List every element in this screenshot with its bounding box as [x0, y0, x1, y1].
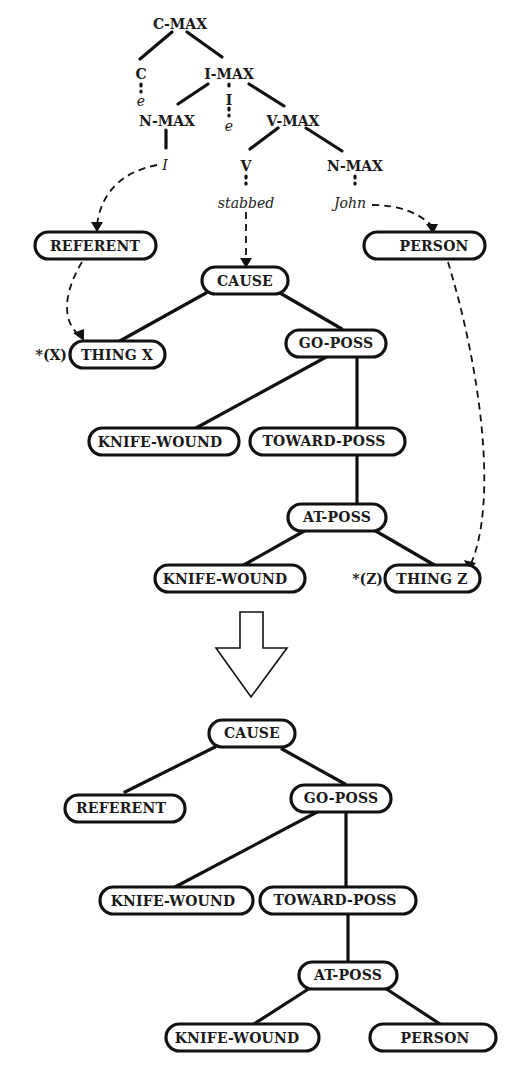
c-max-node: C-MAX	[153, 16, 207, 32]
thing-z-node: THING Z	[385, 565, 480, 592]
thing-x-marker: *(X)	[36, 347, 67, 363]
object-word: John	[331, 195, 366, 211]
thing-z-marker: *(Z)	[352, 571, 383, 587]
svg-text:CAUSE: CAUSE	[217, 273, 273, 289]
n-max-object-node: N-MAX	[327, 158, 383, 174]
result-at-poss-node: AT-POSS	[299, 962, 397, 989]
result-cause-node: CAUSE	[209, 720, 295, 747]
svg-text:PERSON: PERSON	[400, 1030, 469, 1046]
result-knife-wound-node-2: KNIFE-WOUND	[166, 1024, 319, 1051]
svg-text:PERSON: PERSON	[399, 238, 468, 254]
person-node: PERSON	[364, 232, 485, 259]
svg-text:GO-POSS: GO-POSS	[299, 335, 374, 351]
n-max-subject-node: N-MAX	[139, 113, 195, 129]
svg-text:TOWARD-POSS: TOWARD-POSS	[263, 433, 386, 449]
result-person-node: PERSON	[370, 1024, 496, 1051]
i-empty-node: e	[225, 118, 233, 134]
diagram-canvas: C-MAX C e I-MAX I e N-MAX I V-MAX V stab…	[0, 0, 514, 1069]
i-max-node: I-MAX	[204, 66, 254, 82]
referent-node: REFERENT	[35, 232, 156, 259]
toward-poss-node: TOWARD-POSS	[250, 428, 405, 455]
svg-text:TOWARD-POSS: TOWARD-POSS	[274, 892, 397, 908]
knife-wound-node-1: KNIFE-WOUND	[89, 428, 239, 455]
svg-text:REFERENT: REFERENT	[76, 800, 166, 816]
go-poss-node: GO-POSS	[286, 330, 386, 357]
svg-text:KNIFE-WOUND: KNIFE-WOUND	[98, 434, 223, 450]
svg-text:KNIFE-WOUND: KNIFE-WOUND	[163, 571, 288, 587]
i-node: I	[226, 92, 233, 108]
v-max-node: V-MAX	[266, 113, 320, 129]
svg-text:REFERENT: REFERENT	[50, 238, 140, 254]
svg-text:KNIFE-WOUND: KNIFE-WOUND	[111, 893, 236, 909]
verb-word: stabbed	[218, 195, 274, 211]
result-toward-poss-node: TOWARD-POSS	[260, 887, 416, 914]
svg-text:AT-POSS: AT-POSS	[313, 967, 382, 983]
svg-text:AT-POSS: AT-POSS	[302, 509, 371, 525]
down-arrow-icon	[216, 612, 287, 697]
c-node: C	[135, 66, 146, 82]
at-poss-node: AT-POSS	[288, 504, 386, 531]
svg-text:THING X: THING X	[81, 347, 153, 363]
svg-text:THING Z: THING Z	[396, 571, 467, 587]
result-knife-wound-node-1: KNIFE-WOUND	[100, 887, 253, 914]
cause-node: CAUSE	[202, 267, 288, 294]
subject-word: I	[161, 157, 168, 173]
thing-x-node: THING X	[70, 341, 165, 368]
c-empty-node: e	[137, 93, 145, 109]
svg-text:GO-POSS: GO-POSS	[304, 790, 379, 806]
knife-wound-node-2: KNIFE-WOUND	[155, 565, 305, 592]
svg-text:CAUSE: CAUSE	[224, 725, 280, 741]
result-referent-node: REFERENT	[65, 795, 185, 822]
v-node: V	[240, 158, 253, 174]
result-go-poss-node: GO-POSS	[291, 785, 391, 812]
svg-text:KNIFE-WOUND: KNIFE-WOUND	[175, 1030, 300, 1046]
